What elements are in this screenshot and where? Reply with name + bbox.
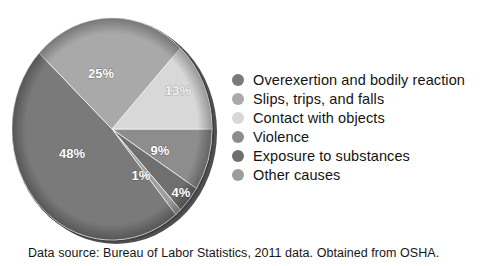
legend-item: Contact with objects: [232, 108, 494, 127]
pie-chart-figure: 9%4%1%48%25%13% Overexertion and bodily …: [0, 0, 500, 266]
pie-svg: 9%4%1%48%25%13%: [12, 8, 234, 246]
legend-swatch-violence: [232, 131, 244, 143]
pie-slice-value-label: 48%: [59, 146, 85, 161]
legend-item-label: Contact with objects: [253, 110, 385, 126]
legend-item: Slips, trips, and falls: [232, 89, 494, 108]
legend-swatch-slips: [232, 93, 244, 105]
legend-item: Overexertion and bodily reaction: [232, 70, 494, 89]
legend-item-label: Violence: [253, 129, 309, 145]
legend-item: Exposure to substances: [232, 146, 494, 165]
pie-slice-value-label: 9%: [151, 143, 170, 158]
legend-swatch-contact: [232, 112, 244, 124]
pie-slice-value-label: 1%: [132, 168, 151, 183]
legend-item-label: Other causes: [253, 167, 340, 183]
pie-slice-value-label: 25%: [88, 66, 114, 81]
legend-item-label: Slips, trips, and falls: [253, 91, 384, 107]
legend-swatch-other: [232, 169, 244, 181]
legend-item: Other causes: [232, 165, 494, 184]
legend-item: Violence: [232, 127, 494, 146]
pie-slice-value-label: 4%: [172, 185, 191, 200]
pie-slices-group: [12, 18, 212, 240]
legend-swatch-overexertion: [232, 74, 244, 86]
legend-swatch-exposure: [232, 150, 244, 162]
pie-chart-plot: 9%4%1%48%25%13%: [12, 8, 234, 246]
pie-slice-value-label: 13%: [165, 83, 191, 98]
chart-caption: Data source: Bureau of Labor Statistics,…: [28, 246, 439, 260]
legend-item-label: Overexertion and bodily reaction: [253, 72, 465, 88]
chart-legend: Overexertion and bodily reactionSlips, t…: [232, 70, 494, 184]
legend-item-label: Exposure to substances: [253, 148, 410, 164]
